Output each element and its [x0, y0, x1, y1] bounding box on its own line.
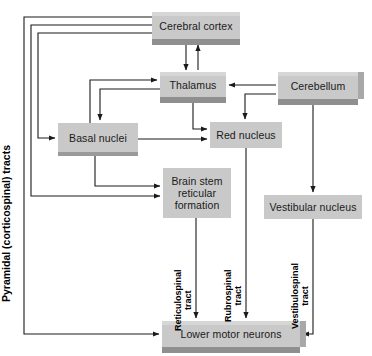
cerebellum-label: Cerebellum — [291, 80, 346, 92]
lower-motor-neurons-bottom-face — [162, 347, 300, 353]
basal-nuclei-label: Basal nuclei — [69, 132, 127, 144]
rubrospinal-tract-label: Rubrospinal tract — [223, 269, 243, 322]
rubrospinal-tract-line2: tract — [233, 269, 243, 322]
node-brain-stem-reticular-formation: Brain stem reticular formation — [163, 168, 231, 218]
node-vestibular-nucleus: Vestibular nucleus — [264, 195, 362, 219]
thalamus-bevel — [160, 72, 226, 76]
cerebellum-bevel — [278, 72, 358, 76]
node-red-nucleus: Red nucleus — [210, 122, 282, 148]
cerebellum-bottom-face — [278, 99, 358, 105]
cerebellum-right-face — [358, 72, 364, 99]
line-cerebellum-to-red-nucleus — [245, 94, 276, 119]
vestibulospinal-tract-line2: tract — [300, 263, 310, 329]
line-thalamus-to-basal-nuclei — [100, 89, 160, 120]
thalamus-label: Thalamus — [170, 79, 217, 91]
red-nucleus-label: Red nucleus — [216, 129, 275, 141]
line-cortex-to-lower-motor-neurons — [24, 17, 159, 334]
line-thalamus-to-red-nucleus — [193, 101, 207, 129]
rubrospinal-tract-line1: Rubrospinal — [223, 269, 233, 322]
brain-stem-label-line3: formation — [175, 199, 220, 211]
reticulospinal-tract-label: Reticulospinal tract — [173, 269, 193, 331]
reticulospinal-tract-line1: Reticulospinal — [173, 269, 183, 331]
lower-motor-neurons-label: Lower motor neurons — [180, 328, 281, 340]
reticulospinal-tract-line2: tract — [183, 269, 193, 331]
vestibulospinal-tract-line1: Vestibulospinal — [290, 263, 300, 329]
cerebral-cortex-bevel — [152, 12, 240, 16]
motor-pathways-diagram: Cerebral cortex Thalamus Cerebellum Basa… — [0, 0, 372, 356]
brain-stem-label-line1: Brain stem — [171, 175, 222, 187]
brain-stem-label-line2: reticular — [178, 187, 216, 199]
node-basal-nuclei: Basal nuclei — [58, 123, 138, 152]
line-basal-nuclei-to-brain-stem — [95, 152, 160, 186]
vestibular-nucleus-label: Vestibular nucleus — [269, 201, 356, 213]
cerebral-cortex-bottom-face — [152, 39, 240, 45]
vestibulospinal-tract-label: Vestibulospinal tract — [290, 263, 310, 329]
node-thalamus: Thalamus — [160, 72, 226, 97]
pyramidal-tract-label: Pyramidal (corticospinal) tracts — [0, 145, 12, 302]
node-cerebellum: Cerebellum — [278, 72, 358, 99]
cerebral-cortex-label: Cerebral cortex — [159, 20, 232, 32]
node-cerebral-cortex: Cerebral cortex — [152, 12, 240, 39]
thalamus-bottom-face — [160, 97, 226, 103]
